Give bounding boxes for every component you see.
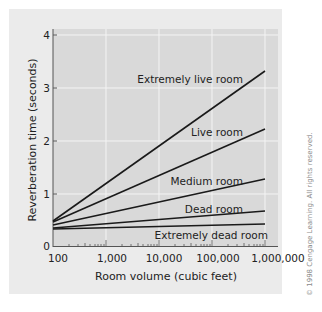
y-tick-1: 1 <box>43 188 50 200</box>
y-tick-0: 0 <box>43 240 50 252</box>
reverberation-chart: Extremely live room Live room Medium roo… <box>0 0 322 312</box>
y-tick-3: 3 <box>43 82 50 94</box>
label-dead-room: Dead room <box>185 203 243 215</box>
y-axis-title: Reverberation time (seconds) <box>26 58 39 221</box>
x-tick-100000: 100,000 <box>196 252 239 264</box>
label-live-room: Live room <box>191 126 243 138</box>
x-axis-title: Room volume (cubic feet) <box>95 270 237 283</box>
y-tick-4: 4 <box>43 29 50 41</box>
x-tick-10000: 10,000 <box>146 252 183 264</box>
y-tick-2: 2 <box>43 135 50 147</box>
x-tick-1000: 1,000 <box>97 252 127 264</box>
x-tick-1000000: 1,000,000 <box>251 252 304 264</box>
copyright-notice: © 1998 Cengage Learning. All rights rese… <box>306 132 314 296</box>
label-extremely-dead-room: Extremely dead room <box>155 229 268 241</box>
label-medium-room: Medium room <box>171 175 244 187</box>
x-tick-100: 100 <box>48 252 68 264</box>
label-extremely-live-room: Extremely live room <box>137 73 243 85</box>
